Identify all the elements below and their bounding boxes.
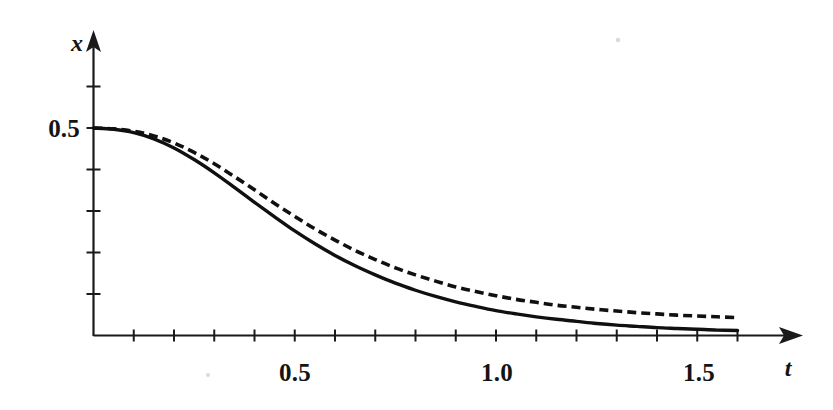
- decay-curves-plot: 0.5 1.0 1.5 0.5 x t: [0, 0, 833, 410]
- plot-background: [0, 0, 833, 410]
- y-axis-label: x: [70, 30, 83, 56]
- y-tick-label-0-5: 0.5: [48, 115, 80, 142]
- scan-speck-lower: [206, 373, 210, 377]
- x-tick-label-0-5: 0.5: [279, 359, 311, 386]
- x-tick-label-1-5: 1.5: [683, 359, 715, 386]
- scan-speck-upper: [616, 38, 620, 42]
- x-tick-label-1-0: 1.0: [481, 359, 513, 386]
- figure-root: 0.5 1.0 1.5 0.5 x t: [0, 0, 833, 410]
